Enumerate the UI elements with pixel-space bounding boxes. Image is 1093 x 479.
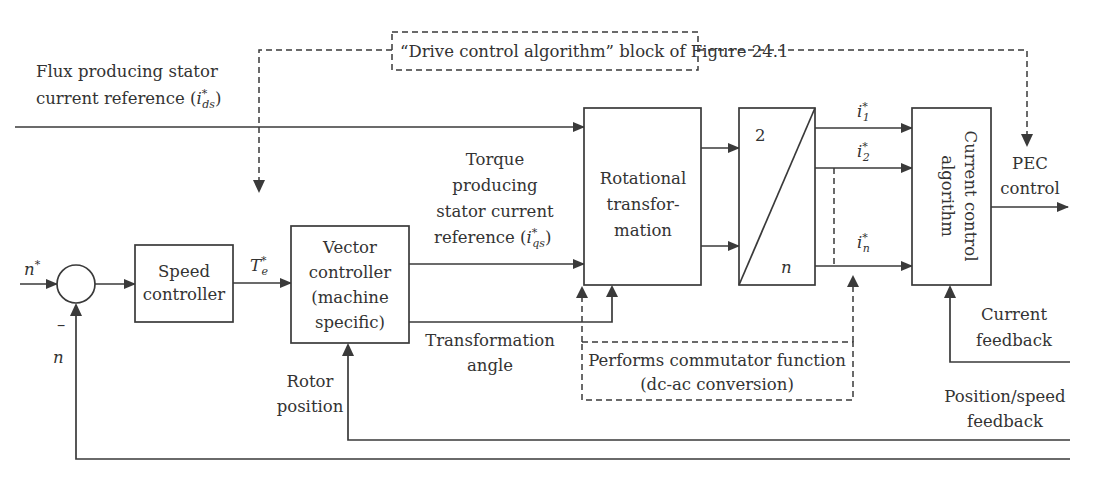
- torque-label-line2: producing: [452, 176, 538, 195]
- i2-label: i*2: [857, 140, 870, 164]
- minus-sign: –: [57, 315, 65, 334]
- current-control-label-1: Current control: [961, 131, 980, 262]
- speed-feedback-line: [76, 315, 1070, 459]
- torque-label-line3: stator current: [436, 202, 554, 221]
- drive-annotation-leader-left: [259, 50, 392, 183]
- speed-reference-label: n*: [24, 258, 41, 279]
- drive-annotation-arrowhead-left: [253, 180, 265, 193]
- phase-converter-top-label: 2: [755, 126, 766, 145]
- vector-controller-label-3: (machine: [311, 288, 388, 307]
- commutator-annotation: Performs commutator function (dc-ac conv…: [576, 275, 859, 400]
- speed-feedback-arrowhead: [70, 303, 82, 316]
- speed-controller-block: Speed controller: [135, 245, 233, 322]
- speed-controller-label-2: controller: [143, 285, 226, 304]
- rotational-label-1: Rotational: [600, 169, 686, 188]
- summing-junction-circle: [57, 265, 95, 303]
- torque-label-line4: reference (i*qs): [434, 226, 551, 250]
- in-label: i*n: [857, 231, 870, 255]
- rotational-label-2: transfor-: [607, 195, 680, 214]
- commutator-arrowhead-left: [576, 286, 588, 298]
- rotor-label-line1: Rotor: [287, 372, 334, 391]
- drive-control-block-diagram: “Drive control algorithm” block of Figur…: [0, 0, 1093, 479]
- current-feedback-label-1: Current: [981, 305, 1047, 324]
- current-feedback-arrowhead: [944, 285, 956, 298]
- pec-label-2: control: [1000, 179, 1060, 198]
- angle-label-line1: Transformation: [425, 331, 555, 350]
- i1-label: i*1: [857, 100, 870, 124]
- current-control-block: Current control algorithm: [912, 108, 991, 285]
- position-feedback-label-2: feedback: [967, 412, 1044, 431]
- drive-annotation-arrowhead-right: [1021, 134, 1033, 147]
- transformation-angle-arrowhead: [606, 285, 618, 297]
- speed-feedback-label: n: [53, 348, 64, 367]
- flux-label-line1: Flux producing stator: [36, 62, 218, 81]
- phase-converter-bottom-label: n: [781, 258, 792, 277]
- flux-label-line2: current reference (i*ds): [36, 87, 221, 111]
- commutator-arrowhead-right: [847, 275, 859, 287]
- rotor-label-line2: position: [277, 397, 344, 416]
- rotational-label-3: mation: [614, 221, 672, 240]
- vector-controller-block: Vector controller (machine specific): [291, 226, 409, 343]
- position-feedback-label-1: Position/speed: [944, 387, 1066, 406]
- current-feedback-label-2: feedback: [976, 331, 1053, 350]
- commutator-label-1: Performs commutator function: [588, 351, 846, 370]
- drive-control-annotation-text: “Drive control algorithm” block of Figur…: [400, 42, 788, 61]
- torque-label-line1: Torque: [466, 150, 525, 169]
- speed-controller-box: [135, 245, 233, 322]
- phase-current-references: i*1 i*2 i*n: [815, 100, 912, 266]
- vector-controller-label-4: specific): [315, 313, 385, 332]
- flux-reference-signal: Flux producing stator current reference …: [15, 62, 584, 127]
- torque-reference-signal: Torque producing stator current referenc…: [409, 150, 584, 264]
- rotor-position-arrowhead: [342, 343, 354, 356]
- phase-converter-block: 2 n: [739, 108, 815, 285]
- torque-reference-label: T*e: [250, 254, 269, 278]
- angle-label-line2: angle: [467, 356, 513, 375]
- vector-controller-label-1: Vector: [322, 238, 377, 257]
- vector-controller-label-2: controller: [309, 263, 392, 282]
- current-control-label-2: algorithm: [938, 155, 957, 237]
- speed-controller-label-1: Speed: [158, 262, 210, 281]
- rotational-transformation-block: Rotational transfor- mation: [584, 108, 701, 285]
- commutator-label-2: (dc-ac conversion): [640, 375, 794, 394]
- pec-label-1: PEC: [1012, 154, 1048, 173]
